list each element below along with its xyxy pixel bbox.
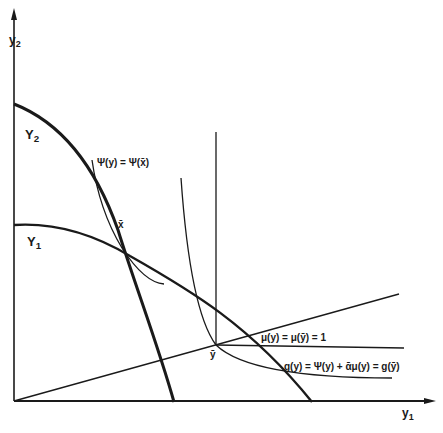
label-mu: μ(y) = μ(ȳ) = 1	[261, 333, 326, 343]
y1-axis-label: y1	[402, 407, 414, 422]
curve-Y1	[14, 225, 312, 402]
y2-axis-arrow-icon	[11, 8, 17, 20]
label-Y1: Y1	[27, 235, 41, 251]
label-y-bar: ȳ	[210, 350, 216, 360]
curve-Y2	[14, 104, 174, 402]
label-x-bar: x̄	[118, 220, 124, 230]
line-mu	[216, 345, 404, 348]
label-Y2: Y2	[25, 128, 39, 144]
label-g: g(y) = Ψ(y) + ᾱμ(y) = g(ȳ)	[284, 362, 400, 372]
y2-axis-label: y2	[9, 34, 21, 49]
label-psi: Ψ(y) = Ψ(x̄)	[97, 158, 149, 168]
y1-axis-arrow-icon	[424, 398, 436, 404]
